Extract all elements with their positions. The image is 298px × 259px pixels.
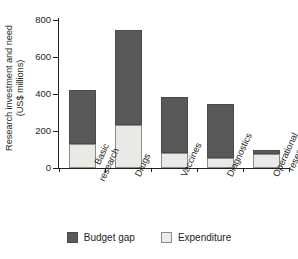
y-axis-title: Research investment and need (US$ millio…: [0, 0, 30, 175]
y-axis-tick-label: 200: [20, 126, 51, 136]
plot-area: [59, 20, 289, 168]
bar-segment-budget-gap: [69, 90, 96, 144]
bar-segment-budget-gap: [115, 30, 142, 125]
y-axis-tick-label: 0: [20, 163, 51, 173]
y-axis-title-line-1: Research investment and need: [4, 25, 15, 151]
bar-operational-research: [253, 20, 280, 168]
x-axis-tick: [59, 168, 60, 172]
legend-item-expenditure: Expenditure: [161, 232, 231, 243]
bar-drugs: [115, 20, 142, 168]
bar-segment-budget-gap: [161, 97, 188, 153]
legend-label-budget-gap: Budget gap: [84, 233, 135, 243]
bar-segment-budget-gap: [253, 150, 280, 154]
x-axis-tick: [197, 168, 198, 172]
chart-legend: Budget gap Expenditure: [0, 232, 298, 243]
y-axis-tick-label: 800: [20, 15, 51, 25]
y-axis-tick-label: 400: [20, 89, 51, 99]
legend-swatch-expenditure: [161, 232, 172, 243]
bar-vaccines: [161, 20, 188, 168]
bar-segment-budget-gap: [207, 104, 234, 158]
bar-basic-research: [69, 20, 96, 168]
legend-swatch-budget-gap: [67, 232, 78, 243]
x-axis-tick: [151, 168, 152, 172]
x-axis-tick: [243, 168, 244, 172]
bar-diagnostics: [207, 20, 234, 168]
chart-figure: Research investment and need (US$ millio…: [0, 0, 298, 259]
y-axis-tick-label: 600: [20, 52, 51, 62]
legend-label-expenditure: Expenditure: [178, 233, 231, 243]
legend-item-budget-gap: Budget gap: [67, 232, 135, 243]
